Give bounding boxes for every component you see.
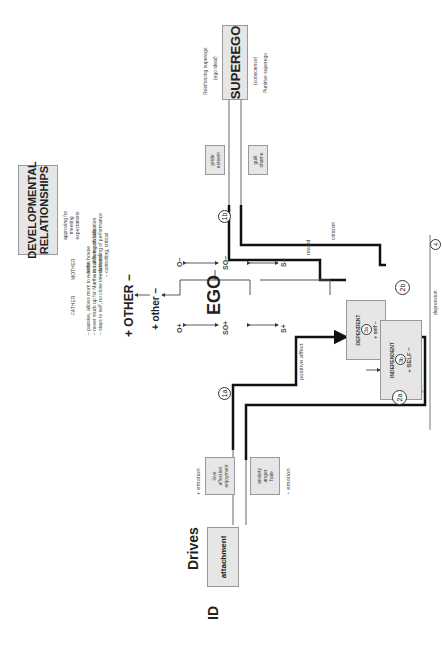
father-traits: – passive, allows mom to rule the house …	[85, 229, 103, 335]
marker-1a: 1a	[218, 387, 231, 400]
ego-node-s-plus: S+	[280, 324, 287, 333]
criticism-label: criticism	[330, 222, 336, 240]
superego-box: SUPEREGO	[222, 25, 248, 100]
dev-title-line1: DEVELOPMENTAL	[26, 161, 38, 259]
other-big-label: + OTHER −	[122, 274, 136, 337]
mother-label: MOTHER	[70, 258, 76, 280]
drives-title: Drives	[185, 527, 201, 570]
ego-title: EGO	[204, 275, 225, 315]
developmental-relationships-box: DEVELOPMENTAL RELATIONSHIPS	[18, 165, 58, 255]
reward-label: reward	[305, 240, 311, 255]
ego-node-so-minus: SO−	[222, 256, 229, 270]
positive-affect-label: positive affect	[298, 343, 305, 380]
dependent-title: DEPENDENT	[355, 315, 361, 346]
other-small-label: + other −	[150, 288, 161, 330]
mother-trait: – controlling, critical	[103, 213, 109, 277]
attachment-box: attachment	[207, 527, 239, 587]
depression-label: depression	[432, 291, 438, 315]
marker-2b: 2b	[395, 280, 410, 295]
father-trait: – stays to self, no close interactions	[97, 229, 103, 335]
independent-sub: + SELF −	[406, 347, 413, 373]
marker-3b: 3b	[395, 355, 406, 366]
dependent-sub: + self −	[372, 321, 378, 338]
dev-title-line2: RELATIONSHIPS	[38, 166, 50, 254]
reinforcing-superego-label: Reinforcing superego	[202, 47, 208, 95]
independent-box: INDEPENDENT 3b + SELF −	[380, 320, 422, 400]
diagram-canvas: ID Drives attachment + emotion love affe…	[0, 0, 442, 655]
conscience-label: (conscience)	[252, 57, 258, 85]
marker-3a: 3a	[361, 325, 372, 336]
ego-node-so-plus: SO+	[222, 321, 229, 335]
ego-node-o-minus: O−	[176, 257, 183, 267]
pride-box: pride esteem	[205, 145, 225, 175]
marker-1b: 1b	[218, 210, 231, 223]
marker-4: 4	[430, 239, 441, 250]
positive-emotion-box: love affection enjoyment	[205, 457, 235, 495]
marker-2a: 2a	[392, 390, 407, 405]
id-label: ID	[205, 606, 221, 620]
ego-node-o-plus: O+	[176, 323, 183, 333]
positive-emotion-label: + emotion	[195, 468, 202, 495]
punitive-superego-label: Punitive superego	[262, 53, 268, 93]
negative-emotion-label: − emotion	[285, 468, 292, 495]
ego-node-s-minus: S−	[280, 258, 287, 267]
ego-ideal-label: (ego ideal)	[212, 56, 218, 80]
negative-emotion-box: anxiety anger hate	[250, 457, 280, 495]
father-label: FATHER	[70, 296, 76, 315]
guilt-box: guilt shame	[248, 145, 268, 175]
approving-label: approving for meeting expectations	[62, 211, 80, 240]
